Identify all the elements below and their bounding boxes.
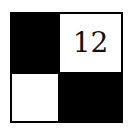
puzzle-grid: 12 (10, 12, 123, 123)
grid-cell-white[interactable]: 12 (59, 13, 122, 73)
grid-cell-black (11, 13, 59, 73)
grid-cell-white[interactable] (11, 73, 59, 122)
grid-cell-black (59, 73, 122, 122)
cell-number: 12 (60, 28, 121, 58)
